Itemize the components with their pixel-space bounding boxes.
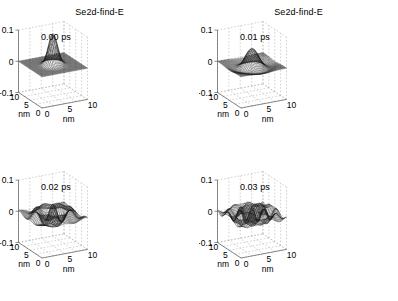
- svg-text:10: 10: [10, 92, 20, 102]
- svg-text:nm: nm: [63, 264, 75, 274]
- time-annotation: 0.03 ps: [240, 182, 270, 192]
- surface-plot-1: 0.10-0.1Real(Psi)1050nm0510nm0.01 ps: [199, 0, 398, 150]
- svg-text:0: 0: [244, 109, 249, 119]
- mesh-surface: [218, 49, 287, 77]
- svg-text:0: 0: [45, 259, 50, 269]
- svg-text:0.1: 0.1: [2, 25, 14, 35]
- svg-text:5: 5: [24, 250, 29, 260]
- svg-text:0: 0: [235, 258, 240, 268]
- svg-text:10: 10: [10, 242, 20, 252]
- svg-text:nm: nm: [18, 259, 30, 269]
- mesh-surface: [218, 201, 287, 227]
- svg-text:5: 5: [223, 100, 228, 110]
- svg-text:10: 10: [287, 250, 297, 260]
- svg-text:nm: nm: [217, 109, 229, 119]
- svg-text:5: 5: [67, 254, 72, 264]
- svg-text:10: 10: [209, 242, 219, 252]
- plot-panel-0: Se2d-find-E 0.10-0.1Real(Psi)1050nm0510n…: [0, 0, 199, 150]
- svg-text:0: 0: [9, 207, 14, 217]
- time-annotation: 0.00 ps: [41, 32, 71, 42]
- svg-text:nm: nm: [262, 264, 274, 274]
- plot-panel-2: 0.10-0.1Real(Psi)1050nm0510nm0.02 ps: [0, 150, 199, 300]
- svg-text:nm: nm: [63, 114, 75, 124]
- svg-text:0.1: 0.1: [2, 175, 14, 185]
- svg-text:0: 0: [45, 109, 50, 119]
- surface-plot-0: 0.10-0.1Real(Psi)1050nm0510nm0.00 ps: [0, 0, 199, 150]
- surface-plot-3: 0.10-0.1Real(Psi)1050nm0510nm0.03 ps: [199, 150, 398, 300]
- svg-text:10: 10: [88, 250, 98, 260]
- svg-text:5: 5: [24, 100, 29, 110]
- svg-text:0: 0: [208, 207, 213, 217]
- svg-text:10: 10: [88, 100, 98, 110]
- svg-text:0: 0: [9, 57, 14, 67]
- svg-text:0.1: 0.1: [201, 175, 213, 185]
- time-annotation: 0.02 ps: [41, 182, 71, 192]
- svg-text:0: 0: [36, 258, 41, 268]
- time-annotation: 0.01 ps: [240, 32, 270, 42]
- svg-text:0: 0: [235, 108, 240, 118]
- plot-panel-3: 0.10-0.1Real(Psi)1050nm0510nm0.03 ps: [199, 150, 398, 300]
- svg-text:nm: nm: [262, 114, 274, 124]
- mesh-surface: [19, 202, 88, 227]
- svg-text:0.1: 0.1: [201, 25, 213, 35]
- svg-text:0: 0: [208, 57, 213, 67]
- svg-text:nm: nm: [18, 109, 30, 119]
- svg-text:0: 0: [36, 108, 41, 118]
- svg-text:5: 5: [266, 254, 271, 264]
- svg-text:0: 0: [244, 259, 249, 269]
- figure-canvas: Se2d-find-E 0.10-0.1Real(Psi)1050nm0510n…: [0, 0, 398, 301]
- svg-text:10: 10: [209, 92, 219, 102]
- svg-text:nm: nm: [217, 259, 229, 269]
- svg-text:5: 5: [223, 250, 228, 260]
- svg-text:5: 5: [266, 104, 271, 114]
- surface-plot-2: 0.10-0.1Real(Psi)1050nm0510nm0.02 ps: [0, 150, 199, 300]
- svg-text:10: 10: [287, 100, 297, 110]
- plot-panel-1: Se2d-find-E 0.10-0.1Real(Psi)1050nm0510n…: [199, 0, 398, 150]
- svg-text:5: 5: [67, 104, 72, 114]
